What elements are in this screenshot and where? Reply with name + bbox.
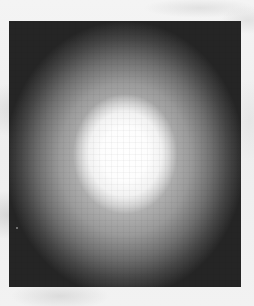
- pixelation-overlay: [9, 21, 241, 287]
- glow-image-frame: [9, 21, 241, 287]
- light-speck: [16, 227, 18, 229]
